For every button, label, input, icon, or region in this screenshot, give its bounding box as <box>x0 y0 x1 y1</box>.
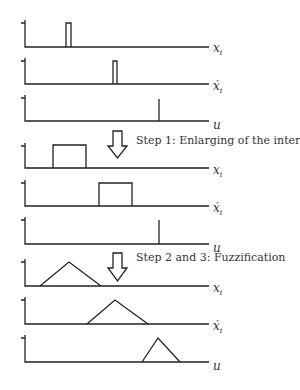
axis-label-x: xi <box>213 41 223 57</box>
plot-x-crisp: xi <box>21 20 223 57</box>
triangle-membership <box>40 262 101 286</box>
axis-label-u: u <box>213 118 221 132</box>
plot-xdot-crisp: ẋi <box>21 58 223 95</box>
down-arrow-icon <box>108 253 127 281</box>
axis <box>21 217 209 244</box>
interval-box <box>53 145 86 168</box>
axis-label-u: u <box>213 359 221 373</box>
triangle-membership <box>142 338 180 362</box>
down-arrow-icon <box>108 131 127 158</box>
narrow-pulse <box>66 23 71 47</box>
triangle-membership <box>87 300 148 324</box>
axis <box>21 335 209 362</box>
interval-box <box>99 183 132 206</box>
axis <box>21 180 209 206</box>
axis-label-xdot: ẋi <box>213 319 223 335</box>
fuzzification-diagram: xi ẋi u Step 1: Enlarging of the interva… <box>0 0 300 390</box>
plot-u-fuzzy: u <box>21 335 221 373</box>
axis <box>21 95 209 121</box>
plot-xdot-fuzzy: ẋi <box>21 297 223 335</box>
axis <box>21 297 209 324</box>
axis <box>21 20 209 47</box>
plot-x-interval: xi <box>21 143 223 179</box>
axis-label-xdot: ẋi <box>213 201 223 217</box>
narrow-pulse <box>113 61 117 84</box>
axis-label-x: xi <box>213 281 223 297</box>
step-1-label: Step 1: Enlarging of the intervals <box>136 134 300 147</box>
axis-label-xdot: ẋi <box>213 79 223 95</box>
plot-xdot-interval: ẋi <box>21 180 223 217</box>
axis <box>21 58 209 84</box>
step-2-label: Step 2 and 3: Fuzzification <box>136 251 285 264</box>
plot-u-interval: u <box>21 217 221 255</box>
plot-u-crisp: u <box>21 95 221 132</box>
axis-label-x: xi <box>213 163 223 179</box>
